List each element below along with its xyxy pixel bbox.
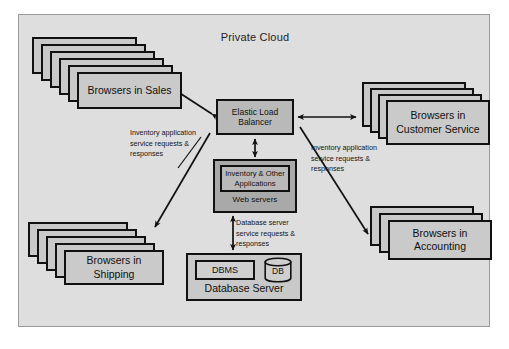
elastic-load-balancer-box[interactable]: Elastic Load Balancer <box>216 99 294 135</box>
inventory-applications-box[interactable]: Inventory & Other Applications <box>220 165 290 192</box>
database-cylinder-icon: DB <box>264 257 292 283</box>
note-database-requests: Database server service requests & respo… <box>236 218 306 250</box>
database-cylinder-label: DB <box>272 266 284 276</box>
web-servers-label: Web servers <box>215 195 295 204</box>
browser-stack-shipping-label: Browsers in Shipping <box>64 250 164 285</box>
browser-stack-sales-label: Browsers in Sales <box>77 72 182 109</box>
browser-stack-accounting-label: Browsers in Accounting <box>388 220 492 260</box>
web-servers-box[interactable]: Inventory & Other Applications Web serve… <box>213 159 297 213</box>
dbms-box[interactable]: DBMS <box>195 260 255 280</box>
note-right-requests: Inventory application service requests &… <box>311 143 383 175</box>
diagram-canvas: Private Cloud <box>0 0 509 349</box>
browser-stack-shipping[interactable]: Browsers in Shipping <box>28 222 173 300</box>
note-left-requests: Inventory application service requests &… <box>130 128 200 160</box>
browser-stack-customer-service-label: Browsers in Customer Service <box>386 100 490 145</box>
database-server-box[interactable]: DBMS DB Database Server <box>186 253 302 301</box>
browser-stack-accounting[interactable]: Browsers in Accounting <box>370 206 495 278</box>
database-server-label: Database Server <box>188 282 300 294</box>
browser-stack-sales[interactable]: Browsers in Sales <box>32 37 180 121</box>
